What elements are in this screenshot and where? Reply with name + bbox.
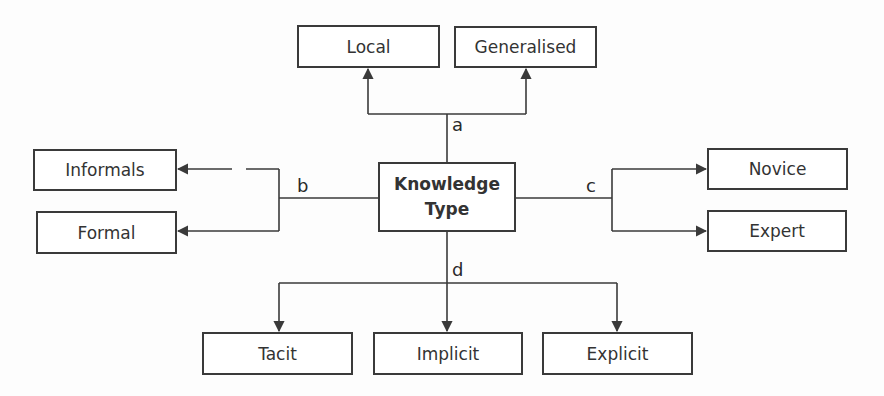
node-expert-label: Expert — [749, 221, 805, 241]
branch-label-c: c — [586, 175, 596, 196]
branch-label-b: b — [297, 175, 308, 196]
node-formal: Formal — [36, 211, 177, 254]
node-novice-label: Novice — [749, 159, 807, 179]
node-informals: Informals — [33, 149, 177, 191]
node-explicit-label: Explicit — [587, 344, 649, 364]
node-tacit: Tacit — [202, 332, 353, 375]
node-expert: Expert — [707, 210, 847, 252]
knowledge-type-diagram: Knowledge Type a Local Generalised b Inf… — [0, 0, 884, 396]
node-generalised: Generalised — [454, 26, 597, 68]
branch-label-d: d — [452, 259, 463, 280]
node-novice: Novice — [707, 148, 848, 190]
knowledge-type-box: Knowledge Type — [378, 162, 516, 232]
node-local-label: Local — [346, 37, 390, 57]
node-explicit: Explicit — [542, 332, 693, 375]
node-local: Local — [297, 25, 440, 68]
center-label-line2: Type — [425, 197, 469, 222]
node-formal-label: Formal — [78, 223, 136, 243]
node-generalised-label: Generalised — [475, 37, 577, 57]
node-tacit-label: Tacit — [258, 344, 297, 364]
node-implicit-label: Implicit — [417, 344, 480, 364]
node-implicit: Implicit — [373, 332, 523, 375]
center-label-line1: Knowledge — [394, 172, 500, 197]
node-informals-label: Informals — [65, 160, 144, 180]
branch-label-a: a — [452, 114, 463, 135]
